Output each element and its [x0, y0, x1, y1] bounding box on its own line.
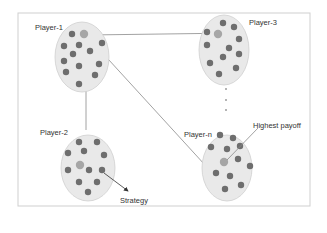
cluster-player-2: [61, 135, 115, 201]
label-player-1: Player-1: [35, 24, 63, 32]
label-player-3: Player-3: [249, 19, 277, 27]
diagram-canvas: Player-1 Player-3 Player-2 Player-n High…: [0, 0, 327, 233]
cluster-player-3: [199, 15, 249, 85]
cluster-player-n: [202, 132, 253, 201]
label-player-n: Player-n: [184, 131, 212, 139]
label-player-2: Player-2: [40, 129, 68, 137]
diagram-svg: [0, 0, 327, 233]
ellipsis-dots: [225, 88, 227, 111]
cluster-player-1: [55, 22, 109, 92]
label-strategy: Strategy: [120, 197, 148, 205]
label-highest-payoff: Highest payoff: [253, 122, 301, 130]
